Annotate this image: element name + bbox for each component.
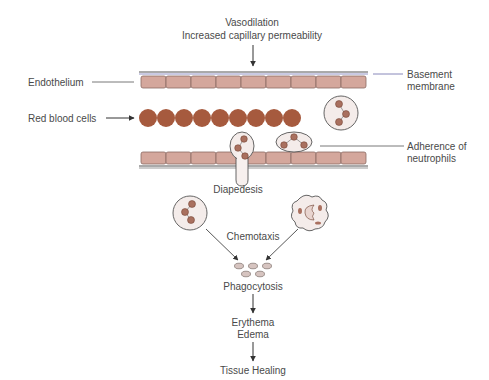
tissue-healing-label: Tissue Healing: [220, 365, 286, 376]
basement-label-2: membrane: [407, 81, 455, 92]
chemotaxis-label: Chemotaxis: [227, 231, 280, 242]
adherence-label-1: Adherence of: [407, 141, 467, 152]
neutrophil-in-vessel: [324, 96, 358, 130]
neutrophil-tissue: [173, 196, 207, 230]
phagocytosis-label: Phagocytosis: [223, 281, 282, 292]
basement-label-1: Basement: [407, 69, 452, 80]
upper-basement-membrane: [139, 72, 368, 74]
diapedesis-label: Diapedesis: [213, 184, 262, 195]
edema-label: Edema: [237, 329, 269, 340]
endothelium-label: Endothelium: [28, 77, 84, 88]
upper-endothelium: [141, 76, 366, 88]
macrophage: [291, 195, 328, 231]
adhering-neutrophil: [276, 132, 312, 152]
erythema-label: Erythema: [232, 317, 275, 328]
lower-basement-membrane: [139, 166, 368, 168]
inflammation-diagram: Vasodilation Increased capillary permeab…: [0, 0, 489, 380]
phagocytosed-particles: [235, 263, 272, 277]
rbc-label: Red blood cells: [28, 113, 96, 124]
lower-endothelium: [141, 152, 366, 164]
red-blood-cells: [139, 109, 301, 127]
vasodilation-label: Vasodilation: [225, 17, 279, 28]
permeability-label: Increased capillary permeability: [182, 30, 322, 41]
adherence-label-2: neutrophils: [407, 153, 456, 164]
